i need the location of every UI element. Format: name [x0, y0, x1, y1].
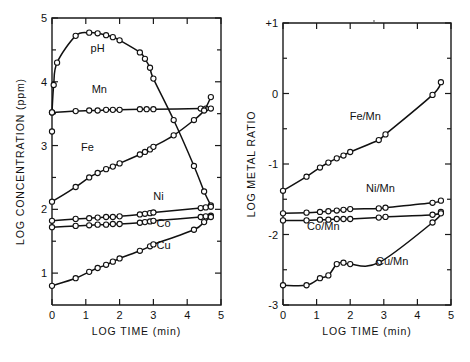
data-point [203, 214, 208, 219]
data-point [87, 175, 92, 180]
data-point [95, 265, 100, 270]
data-point [73, 276, 78, 281]
data-point [117, 161, 122, 166]
data-point [137, 107, 142, 112]
data-point [110, 221, 115, 226]
data-point [383, 132, 388, 137]
data-point [110, 107, 115, 112]
y-tick-label: 1 [41, 267, 47, 279]
data-point [49, 218, 54, 223]
data-point [110, 35, 115, 40]
data-point [304, 210, 309, 215]
data-point [203, 205, 208, 210]
data-point [438, 80, 443, 85]
data-point [208, 214, 213, 219]
y-tick-label: -1 [268, 158, 278, 170]
data-point [383, 214, 388, 219]
x-tick-label: 1 [314, 309, 320, 321]
data-point [326, 160, 331, 165]
data-point [51, 82, 56, 87]
data-point [137, 220, 142, 225]
data-point [376, 137, 381, 142]
data-point [142, 211, 147, 216]
data-point [103, 222, 108, 227]
data-point [117, 214, 122, 219]
data-point [304, 283, 309, 288]
data-point [171, 133, 176, 138]
data-point [341, 216, 346, 221]
series-label-cu-mn: Cu/Mn [376, 255, 408, 267]
x-tick-label: 3 [381, 309, 387, 321]
data-point [73, 223, 78, 228]
x-tick-label: 5 [218, 309, 224, 321]
x-tick-label: 4 [184, 309, 190, 321]
data-point [191, 163, 196, 168]
data-point [137, 50, 142, 55]
plot-frame [52, 18, 221, 305]
data-point [103, 214, 108, 219]
data-point [117, 107, 122, 112]
data-point [87, 223, 92, 228]
data-point [142, 56, 147, 61]
data-point [151, 107, 156, 112]
data-point [103, 107, 108, 112]
data-point [341, 207, 346, 212]
data-point [73, 184, 78, 189]
data-point [49, 225, 54, 230]
data-point [117, 221, 122, 226]
data-point [117, 38, 122, 43]
data-point [317, 209, 322, 214]
y-axis-title: LOG CONCENTRATION (ppm) [14, 78, 26, 245]
data-point [110, 214, 115, 219]
data-point [202, 108, 207, 113]
data-point [348, 207, 353, 212]
x-tick-label: 5 [448, 309, 454, 321]
data-point [348, 149, 353, 154]
x-tick-label: 0 [49, 309, 55, 321]
x-tick-label: 0 [280, 309, 286, 321]
data-point [87, 108, 92, 113]
y-tick-label: -2 [268, 229, 278, 241]
data-point [49, 110, 54, 115]
data-point [137, 248, 142, 253]
data-point [73, 33, 78, 38]
series-label-mn: Mn [92, 83, 107, 95]
series-label-ni: Ni [153, 190, 163, 202]
data-point [147, 65, 152, 70]
data-point [137, 212, 142, 217]
data-point [73, 216, 78, 221]
y-axis-title: LOG METAL RATIO [245, 111, 257, 218]
data-point [137, 152, 142, 157]
data-point [334, 156, 339, 161]
y-tick-label: 2 [41, 203, 47, 215]
y-tick-label: 0 [272, 88, 278, 100]
data-point [198, 205, 203, 210]
data-point [438, 211, 443, 216]
data-point [280, 218, 285, 223]
x-tick-label: 3 [150, 309, 156, 321]
x-tick-label: 1 [83, 309, 89, 321]
series-label-co: Co [157, 217, 171, 229]
data-point [326, 209, 331, 214]
data-point [202, 189, 207, 194]
data-point [280, 211, 285, 216]
data-point [95, 31, 100, 36]
y-tick-label: 4 [41, 76, 47, 88]
data-point [151, 144, 156, 149]
series-label-ni-mn: Ni/Mn [366, 182, 395, 194]
data-point [87, 269, 92, 274]
data-point [341, 260, 346, 265]
series-label-cu: Cu [157, 239, 171, 251]
data-point [348, 216, 353, 221]
data-point [208, 94, 213, 99]
data-point [87, 30, 92, 35]
scan-speck [373, 20, 375, 22]
data-point [334, 208, 339, 213]
x-axis-title: LOG TIME (min) [92, 325, 181, 337]
data-point [117, 256, 122, 261]
data-point [280, 188, 285, 193]
data-point [438, 198, 443, 203]
data-point [95, 170, 100, 175]
y-tick-label: -3 [268, 299, 278, 311]
data-point [304, 174, 309, 179]
